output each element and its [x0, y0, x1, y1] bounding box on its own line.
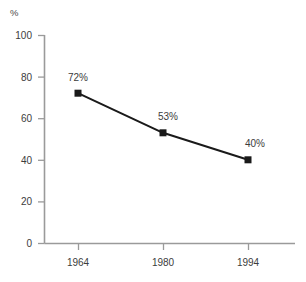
y-axis-ticks	[38, 36, 45, 244]
data-label-1964: 72%	[60, 73, 96, 83]
line-chart: % 100 80 60 40 2	[0, 0, 306, 282]
y-tick-label-80: 80	[2, 73, 32, 83]
data-label-1980: 53%	[150, 112, 186, 122]
data-point-marker	[160, 129, 167, 136]
x-tick-label-1964: 1964	[55, 258, 101, 268]
data-point-marker	[75, 90, 82, 97]
x-axis-ticks	[79, 244, 249, 251]
x-tick-label-1980: 1980	[140, 258, 186, 268]
y-tick-label-60: 60	[2, 114, 32, 124]
x-tick-label-1994: 1994	[225, 258, 271, 268]
y-tick-label-0: 0	[2, 239, 32, 249]
data-point-marker	[245, 156, 252, 163]
y-tick-label-100: 100	[2, 31, 32, 41]
y-tick-label-20: 20	[2, 197, 32, 207]
data-line-series	[78, 93, 248, 160]
data-label-1994: 40%	[237, 139, 273, 149]
y-tick-label-40: 40	[2, 156, 32, 166]
